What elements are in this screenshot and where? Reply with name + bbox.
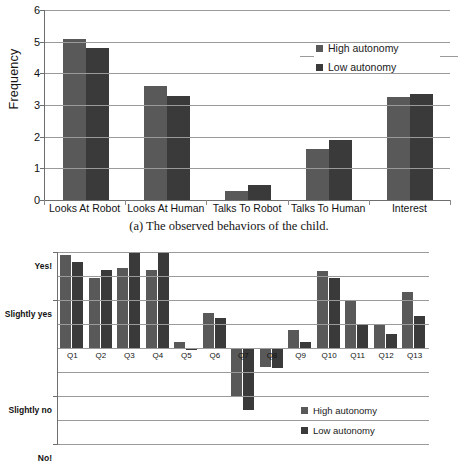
grid-line [58, 396, 429, 397]
grid-line [58, 276, 429, 277]
y-tick-label: No! [0, 453, 52, 463]
y-tick-mark [40, 73, 45, 74]
y-tick-label: 3 [14, 99, 40, 111]
y-tick-label: Yes! [0, 261, 52, 271]
bar-low-autonomy [215, 318, 226, 348]
grid-line [58, 348, 429, 349]
grid-line [58, 444, 429, 445]
y-tick-label: 1 [14, 162, 40, 174]
bar-high-autonomy [203, 313, 214, 348]
legend-item-low-autonomy-b: Low autonomy [301, 425, 377, 436]
bar-low-autonomy [329, 278, 340, 348]
x-axis-question-label: Q13 [400, 351, 429, 360]
y-tick-label: 2 [14, 131, 40, 143]
figure-b-bars-region: Yes!Slightly yesSlightly noNo! Q1Q2Q3Q4Q… [57, 252, 429, 444]
legend-swatch-icon-high [316, 45, 323, 52]
x-axis-question-label: Q2 [87, 351, 116, 360]
legend-item-low-autonomy: Low autonomy [316, 61, 399, 73]
figure-a-caption: (a) The observed behaviors of the child. [0, 219, 458, 234]
y-tick-mark [53, 252, 58, 253]
bar-high-autonomy [63, 39, 86, 201]
y-tick-mark [40, 137, 45, 138]
grid-line [45, 137, 450, 138]
legend-swatch-icon-low [316, 64, 323, 71]
y-tick-mark [40, 105, 45, 106]
grid-line [58, 324, 429, 325]
grid-line [45, 105, 450, 106]
bar-high-autonomy [146, 270, 157, 348]
legend-grid-stub-left [300, 56, 314, 57]
bar-high-autonomy [117, 268, 128, 348]
legend-label-high: High autonomy [328, 42, 399, 54]
x-tick-mark [450, 200, 451, 205]
figure-a-plot-area: Frequency 0123456 Looks At RobotLooks At… [0, 4, 458, 214]
bar-low-autonomy [357, 324, 368, 348]
bar-high-autonomy [387, 97, 410, 200]
figure-a-bars-region [44, 10, 450, 200]
figure-b-questionnaire-answers: Yes!Slightly yesSlightly noNo! Q1Q2Q3Q4Q… [0, 238, 458, 474]
x-axis-category-label: Talks To Robot [206, 202, 287, 214]
x-axis-question-label: Q3 [115, 351, 144, 360]
bar-high-autonomy [288, 330, 299, 348]
x-axis-question-label: Q1 [58, 351, 87, 360]
grid-line [58, 252, 429, 253]
figure-b-y-tick-labels: Yes!Slightly yesSlightly noNo! [0, 266, 52, 458]
bar-high-autonomy [306, 149, 329, 200]
grid-line [45, 168, 450, 169]
grid-line [58, 372, 429, 373]
bar-low-autonomy [386, 334, 397, 348]
figure-b-legend: High autonomy Low autonomy [301, 405, 377, 445]
y-tick-mark [40, 168, 45, 169]
figure-a-y-tick-labels: 0123456 [14, 10, 40, 200]
bar-low-autonomy [86, 48, 109, 200]
x-axis-question-label: Q9 [286, 351, 315, 360]
bar-low-autonomy [167, 96, 190, 201]
bar-low-autonomy [248, 185, 271, 200]
legend-grid-stub-right [440, 56, 458, 57]
bar-low-autonomy [101, 270, 112, 348]
bar-high-autonomy [374, 324, 385, 348]
grid-line [58, 420, 429, 421]
bar-high-autonomy [317, 271, 328, 348]
x-axis-question-label: Q12 [372, 351, 401, 360]
bar-high-autonomy [89, 278, 100, 348]
x-axis-category-label: Looks At Robot [44, 202, 125, 214]
y-tick-mark [53, 444, 58, 445]
x-axis-question-label: Q8 [258, 351, 287, 360]
figure-a-legend: High autonomy Low autonomy [316, 42, 399, 80]
legend-swatch-icon-high-b [301, 407, 308, 414]
figure-a-x-axis-labels: Looks At RobotLooks At HumanTalks To Rob… [44, 202, 450, 214]
x-axis-category-label: Interest [369, 202, 450, 214]
y-tick-mark [53, 300, 58, 301]
x-axis-question-label: Q6 [201, 351, 230, 360]
y-tick-mark [40, 42, 45, 43]
bar-low-autonomy [72, 262, 83, 348]
y-tick-label: Slightly no [0, 405, 52, 415]
legend-swatch-icon-low-b [301, 427, 308, 434]
bar-high-autonomy [60, 255, 71, 348]
grid-line [45, 10, 450, 11]
grid-line [58, 300, 429, 301]
y-tick-label: 5 [14, 36, 40, 48]
bar-high-autonomy [144, 86, 167, 200]
legend-label-low-b: Low autonomy [313, 425, 375, 436]
x-axis-category-label: Talks To Human [288, 202, 369, 214]
legend-label-high-b: High autonomy [313, 405, 377, 416]
y-tick-mark [53, 396, 58, 397]
x-axis-question-label: Q5 [172, 351, 201, 360]
x-axis-question-label: Q7 [229, 351, 258, 360]
y-tick-label: 6 [14, 4, 40, 16]
y-tick-label: 0 [14, 194, 40, 206]
y-tick-label: Slightly yes [0, 309, 52, 319]
legend-label-low: Low autonomy [328, 61, 396, 73]
bar-high-autonomy [225, 191, 248, 201]
x-axis-question-label: Q4 [144, 351, 173, 360]
bar-low-autonomy [329, 140, 352, 200]
legend-item-high-autonomy: High autonomy [316, 42, 399, 54]
x-axis-question-label: Q10 [315, 351, 344, 360]
y-tick-mark [40, 10, 45, 11]
figure-a-observed-behaviors: Frequency 0123456 Looks At RobotLooks At… [0, 0, 458, 236]
bar-low-autonomy [410, 94, 433, 200]
x-axis-question-label: Q11 [343, 351, 372, 360]
legend-item-high-autonomy-b: High autonomy [301, 405, 377, 416]
